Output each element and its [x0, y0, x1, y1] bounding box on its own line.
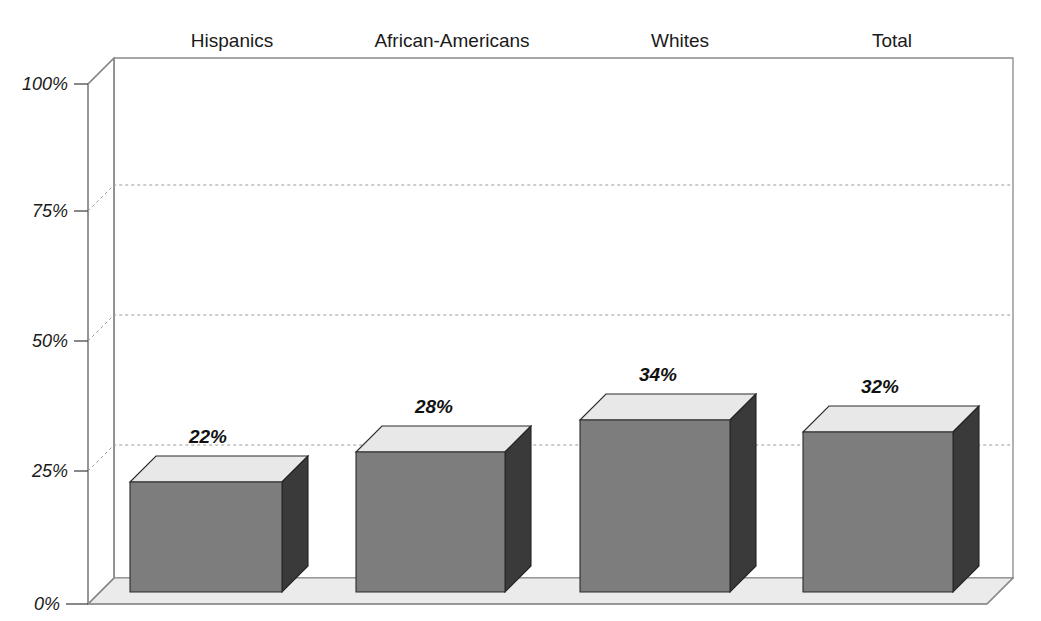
- bar-african-americans-side: [505, 426, 531, 592]
- bar-total[interactable]: [803, 406, 979, 592]
- category-labels: Hispanics African-Americans Whites Total: [191, 30, 912, 51]
- value-label-whites: 34%: [639, 364, 677, 385]
- y-axis-label-75: 75%: [32, 201, 68, 221]
- y-axis-label-50: 50%: [32, 331, 68, 351]
- bar-total-side: [953, 406, 979, 592]
- bar-hispanics-front: [130, 482, 282, 592]
- y-axis-label-0: 0%: [34, 594, 60, 614]
- chart-canvas: 100% 75% 50% 25% 0% Hispanics African-Am…: [0, 0, 1041, 621]
- bar-whites[interactable]: [580, 394, 756, 592]
- category-label-hispanics: Hispanics: [191, 30, 273, 51]
- y-axis-label-25: 25%: [31, 461, 68, 481]
- left-wall: [88, 58, 114, 604]
- bar-african-americans-front: [356, 452, 505, 592]
- value-label-total: 32%: [861, 376, 899, 397]
- bar-total-front: [803, 432, 953, 592]
- category-label-african-americans: African-Americans: [374, 30, 529, 51]
- bar-total-top: [803, 406, 979, 432]
- value-label-african-americans: 28%: [414, 396, 453, 417]
- category-label-whites: Whites: [651, 30, 709, 51]
- category-label-total: Total: [872, 30, 912, 51]
- bar-whites-front: [580, 420, 730, 592]
- bar-hispanics[interactable]: [130, 456, 308, 592]
- bar-african-americans-top: [356, 426, 531, 452]
- bar-whites-side: [730, 394, 756, 592]
- bar-african-americans[interactable]: [356, 426, 531, 592]
- y-axis-ticks: [66, 84, 88, 604]
- y-axis-label-100: 100%: [22, 74, 68, 94]
- value-label-hispanics: 22%: [188, 426, 227, 447]
- bar-whites-top: [580, 394, 756, 420]
- y-axis-labels: 100% 75% 50% 25% 0%: [22, 74, 68, 614]
- bar-chart-figure: 100% 75% 50% 25% 0% Hispanics African-Am…: [0, 0, 1041, 621]
- bar-hispanics-top: [130, 456, 308, 482]
